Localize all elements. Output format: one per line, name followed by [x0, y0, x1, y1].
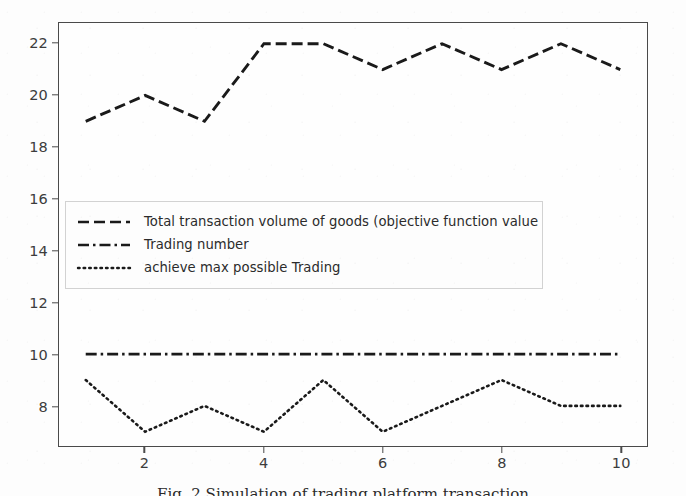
- y-tick-mark: [52, 302, 58, 303]
- y-axis-tick-labels: 810121416182022: [0, 0, 48, 496]
- y-tick-label: 18: [29, 139, 48, 155]
- legend-item[interactable]: Total transaction volume of goods (objec…: [76, 210, 532, 233]
- series-line-1: [86, 44, 621, 122]
- figure-caption: Fig. 2 Simulation of trading platform tr…: [0, 487, 686, 496]
- legend-line-sample-dashdot-icon: [76, 238, 132, 252]
- legend-item[interactable]: Trading number: [76, 233, 532, 256]
- y-tick-mark: [52, 406, 58, 407]
- x-tick-label: 10: [612, 455, 631, 471]
- y-tick-mark: [52, 198, 58, 199]
- x-tick-label: 4: [259, 455, 268, 471]
- y-tick-label: 12: [29, 295, 48, 311]
- x-tick-mark: [382, 447, 383, 453]
- legend-item-label: achieve max possible Trading: [144, 260, 340, 275]
- legend-item-label: Trading number: [144, 237, 249, 252]
- y-tick-label: 8: [39, 399, 48, 415]
- y-tick-label: 22: [29, 35, 48, 51]
- y-tick-mark: [52, 94, 58, 95]
- chart-legend: Total transaction volume of goods (objec…: [65, 201, 543, 289]
- x-tick-label: 6: [378, 455, 387, 471]
- x-tick-mark: [620, 447, 621, 453]
- legend-item-label: Total transaction volume of goods (objec…: [144, 214, 538, 229]
- y-tick-mark: [52, 250, 58, 251]
- y-tick-mark: [52, 146, 58, 147]
- x-axis-tick-labels: 246810: [0, 455, 686, 477]
- y-tick-mark: [52, 42, 58, 43]
- y-tick-label: 20: [29, 87, 48, 103]
- y-tick-label: 14: [29, 243, 48, 259]
- x-tick-mark: [263, 447, 264, 453]
- legend-item[interactable]: achieve max possible Trading: [76, 256, 532, 279]
- series-line-3: [86, 380, 621, 432]
- x-tick-label: 2: [140, 455, 149, 471]
- y-tick-mark: [52, 354, 58, 355]
- legend-line-sample-dashed-icon: [76, 215, 132, 229]
- legend-line-sample-dotted-icon: [76, 261, 132, 275]
- figure-canvas: 810121416182022 246810 Total transaction…: [0, 0, 686, 496]
- x-tick-label: 8: [497, 455, 506, 471]
- y-tick-label: 10: [29, 347, 48, 363]
- x-tick-mark: [144, 447, 145, 453]
- y-tick-label: 16: [29, 191, 48, 207]
- x-tick-mark: [501, 447, 502, 453]
